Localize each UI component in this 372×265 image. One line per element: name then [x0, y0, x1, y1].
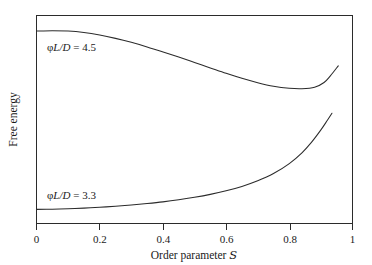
x-tick-label-0: 0	[34, 233, 40, 245]
x-axis-tick-labels: 0 0.2 0.4 0.6 0.8 1	[34, 233, 356, 245]
annotation-phi-ld-3-3: φL/D = 3.3	[47, 189, 96, 201]
annotation-phi-ld-4-5: φL/D = 4.5	[47, 41, 96, 53]
x-tick-label-2: 0.4	[156, 233, 170, 245]
x-tick-label-3: 0.6	[220, 233, 234, 245]
annotation-1-value: = 3.3	[70, 189, 96, 201]
x-axis-title-text: Order parameter	[151, 249, 230, 262]
free-energy-chart: 0 0.2 0.4 0.6 0.8 1 Order parameter 𝑆 Fr…	[0, 0, 372, 265]
y-axis-title: Free energy	[7, 92, 20, 147]
annotation-1-ld: L/D	[52, 189, 70, 201]
figure-container: 0 0.2 0.4 0.6 0.8 1 Order parameter 𝑆 Fr…	[0, 0, 372, 265]
x-tick-label-5: 1	[350, 233, 356, 245]
x-tick-label-1: 0.2	[93, 233, 107, 245]
annotation-0-value: = 4.5	[70, 41, 96, 53]
x-axis-ticks	[37, 224, 353, 230]
x-tick-label-4: 0.8	[283, 233, 297, 245]
x-axis-title: Order parameter 𝑆	[151, 249, 238, 262]
x-axis-title-symbol: 𝑆	[229, 249, 237, 261]
annotation-0-ld: L/D	[52, 41, 70, 53]
